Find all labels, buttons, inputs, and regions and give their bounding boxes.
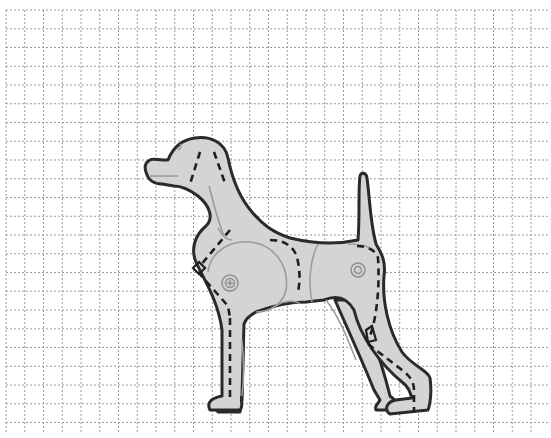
dog-anatomy-diagram: [0, 0, 551, 438]
dotted-grid: [6, 10, 549, 433]
